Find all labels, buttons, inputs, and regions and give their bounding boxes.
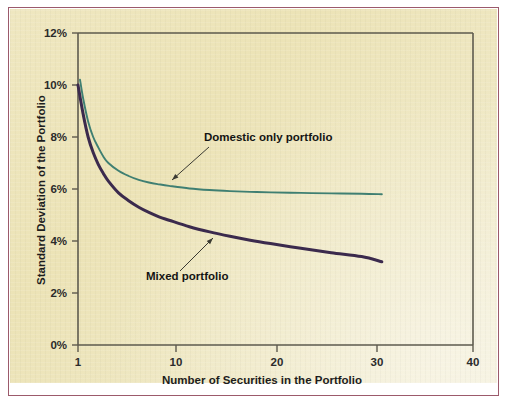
paper-sheen [10,9,497,383]
chart-panel-background [10,9,497,383]
figure-canvas: 12% 10% 8% 6% 4% 2% 0% 1 10 20 30 40 Num… [0,0,508,408]
